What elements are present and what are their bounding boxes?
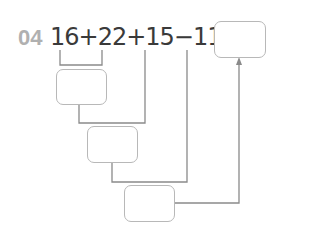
final-answer-box[interactable] (214, 21, 266, 58)
step1-answer-box[interactable] (56, 69, 107, 105)
step3-answer-box[interactable] (124, 185, 175, 222)
step2-answer-box[interactable] (87, 126, 138, 163)
arrow-up-icon (236, 57, 242, 65)
